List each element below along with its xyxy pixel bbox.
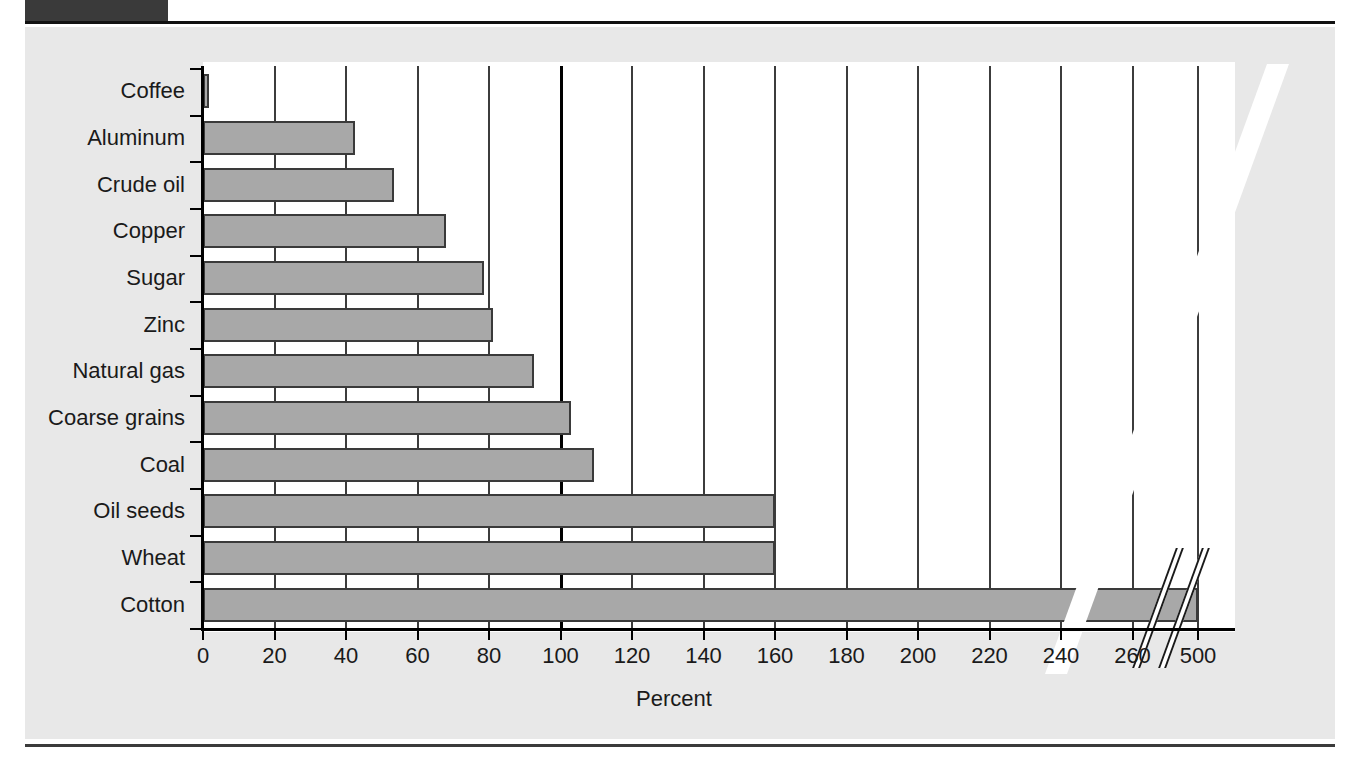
bar-zinc: [203, 308, 493, 342]
category-label-copper: Copper: [113, 218, 185, 244]
x-axis-line: [201, 628, 1235, 631]
bar-oil-seeds: [203, 494, 775, 528]
x-tick-label: 220: [971, 643, 1008, 669]
x-tick: [1060, 629, 1062, 640]
x-tick-label: 200: [900, 643, 937, 669]
x-tick: [560, 629, 562, 640]
y-tick: [190, 208, 202, 210]
gridline: [917, 66, 919, 629]
y-tick: [190, 348, 202, 350]
bar-copper: [203, 214, 446, 248]
category-label-oil-seeds: Oil seeds: [93, 498, 185, 524]
x-tick: [274, 629, 276, 640]
figure-page: CoffeeAluminumCrude oilCopperSugarZincNa…: [0, 0, 1348, 767]
category-label-zinc: Zinc: [143, 312, 185, 338]
x-tick: [631, 629, 633, 640]
x-tick: [202, 629, 204, 640]
gridline: [1197, 66, 1199, 629]
category-label-natural-gas: Natural gas: [72, 358, 185, 384]
x-tick-label: 80: [477, 643, 501, 669]
category-label-coffee: Coffee: [121, 78, 185, 104]
x-tick-label: 120: [614, 643, 651, 669]
y-tick: [190, 441, 202, 443]
y-tick: [190, 581, 202, 583]
x-tick: [345, 629, 347, 640]
y-tick: [190, 535, 202, 537]
x-tick-label: 180: [828, 643, 865, 669]
x-tick-label: 0: [197, 643, 209, 669]
x-tick: [846, 629, 848, 640]
category-label-sugar: Sugar: [126, 265, 185, 291]
bar-coal: [203, 448, 594, 482]
bar-wheat: [203, 541, 775, 575]
x-axis-title: Percent: [0, 686, 1348, 712]
x-tick: [989, 629, 991, 640]
x-tick: [1132, 629, 1134, 640]
header-rule: [25, 21, 1335, 24]
bar-natural-gas: [203, 354, 534, 388]
y-tick: [190, 68, 202, 70]
bar-crude-oil: [203, 168, 394, 202]
bar-cotton: [203, 588, 1198, 622]
category-label-aluminum: Aluminum: [87, 125, 185, 151]
gridline: [989, 66, 991, 629]
x-tick-label: 500: [1180, 643, 1217, 669]
x-tick-label: 240: [1043, 643, 1080, 669]
category-label-coal: Coal: [140, 452, 185, 478]
y-tick: [190, 255, 202, 257]
x-tick-label: 20: [262, 643, 286, 669]
x-tick: [917, 629, 919, 640]
gridline: [1132, 66, 1134, 629]
y-tick: [190, 301, 202, 303]
x-tick: [1197, 629, 1199, 640]
x-tick-label: 140: [685, 643, 722, 669]
x-tick-label: 60: [405, 643, 429, 669]
bar-aluminum: [203, 121, 355, 155]
category-label-coarse-grains: Coarse grains: [48, 405, 185, 431]
x-tick-label: 160: [757, 643, 794, 669]
x-tick: [774, 629, 776, 640]
x-tick: [703, 629, 705, 640]
x-tick: [488, 629, 490, 640]
x-tick: [417, 629, 419, 640]
y-tick: [190, 395, 202, 397]
bar-sugar: [203, 261, 484, 295]
category-label-crude-oil: Crude oil: [97, 172, 185, 198]
y-tick: [190, 115, 202, 117]
gridline: [846, 66, 848, 629]
header-block-decoration: [25, 0, 168, 22]
footer-rule: [25, 744, 1335, 747]
x-tick-label: 100: [542, 643, 579, 669]
y-tick: [190, 161, 202, 163]
bar-coarse-grains: [203, 401, 571, 435]
y-tick: [190, 628, 202, 630]
y-tick: [190, 488, 202, 490]
category-label-wheat: Wheat: [121, 545, 185, 571]
x-tick-label: 40: [334, 643, 358, 669]
category-label-cotton: Cotton: [120, 592, 185, 618]
x-tick-label: 260: [1114, 643, 1151, 669]
gridline: [1060, 66, 1062, 629]
